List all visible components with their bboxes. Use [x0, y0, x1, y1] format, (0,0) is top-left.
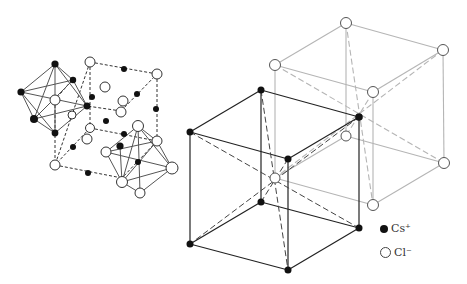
legend-cl-label: Cl⁻: [394, 246, 412, 259]
crystal-structure-diagram: [0, 0, 467, 284]
legend-cs-label: Cs⁺: [391, 222, 411, 235]
packed-lattice: [21, 62, 172, 193]
legend-cl: Cl⁻: [380, 246, 412, 259]
filled-circle-icon: [380, 225, 388, 233]
packed-lattice-atoms: [17, 57, 178, 198]
legend-cs: Cs⁺: [380, 222, 411, 235]
open-circle-icon: [380, 247, 391, 258]
